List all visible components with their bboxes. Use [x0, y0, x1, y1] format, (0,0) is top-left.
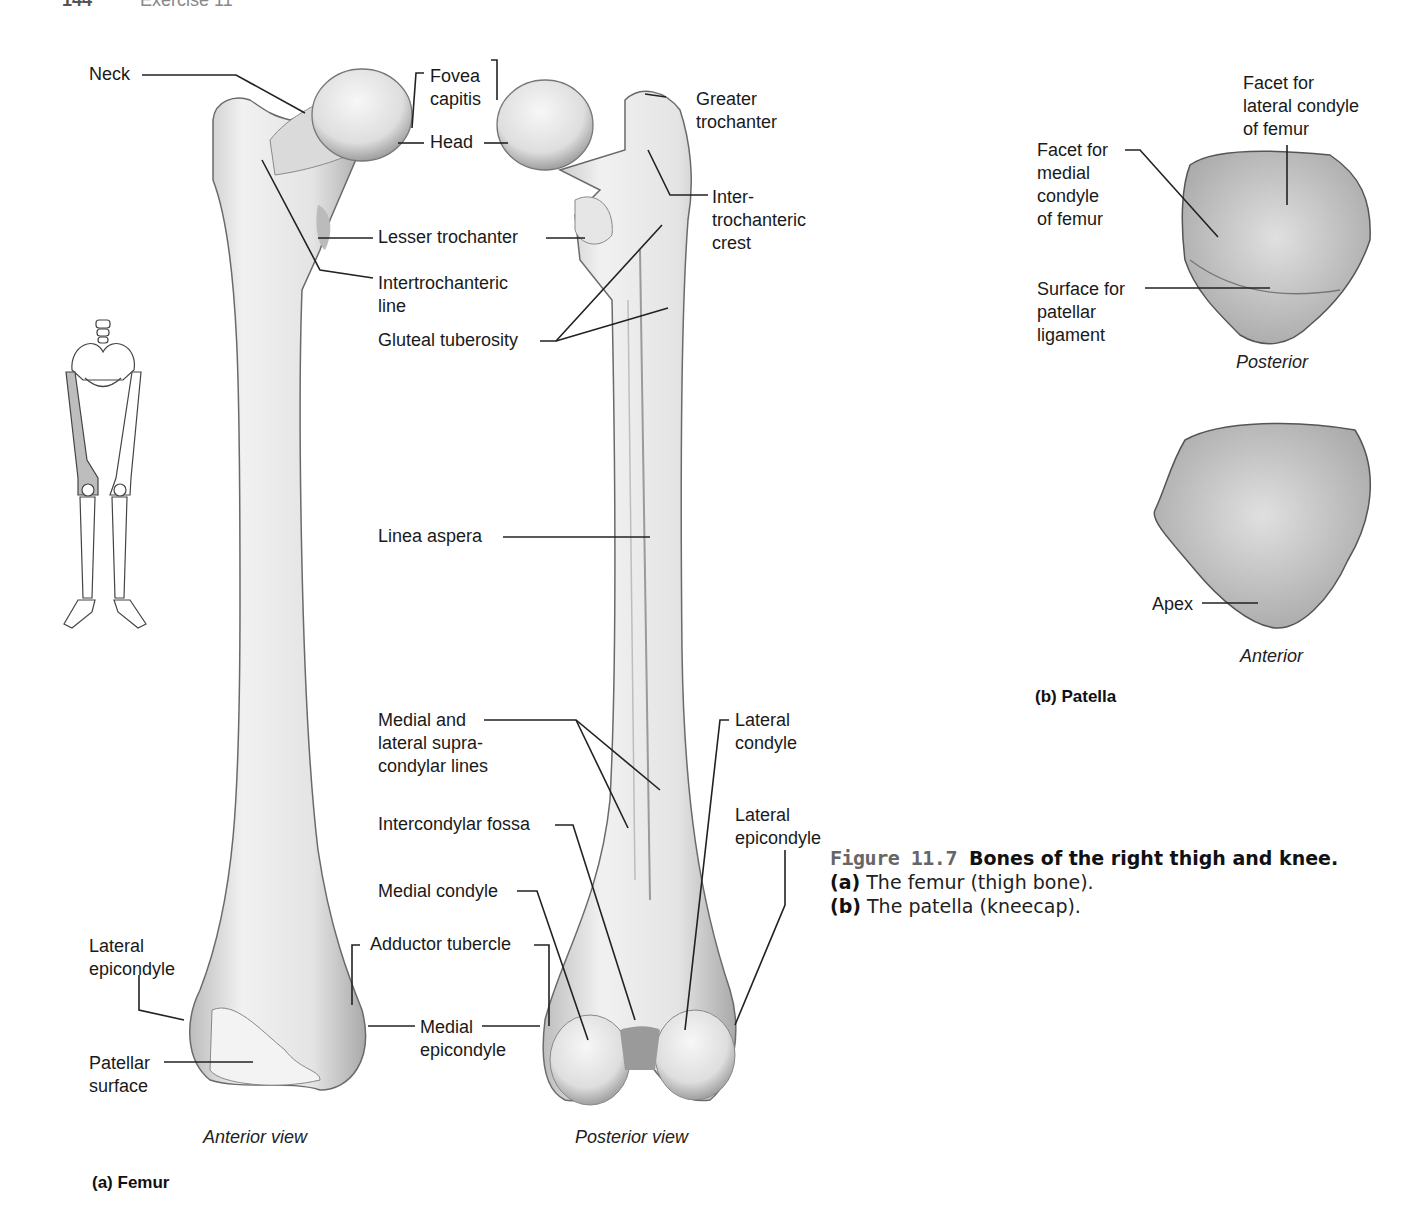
label-surface-patellar-ligament: Surface for patellar ligament — [1037, 278, 1125, 347]
label-gluteal-tuberosity: Gluteal tuberosity — [378, 329, 518, 352]
label-supracondylar-lines: Medial and lateral supra- condylar lines — [378, 709, 488, 778]
label-intertrochanteric-crest: Inter- trochanteric crest — [712, 186, 806, 255]
figure-title: Bones of the right thigh and knee. — [969, 847, 1338, 869]
figure-artwork — [0, 0, 1427, 1231]
part-b-text: The patella (kneecap). — [867, 895, 1081, 917]
label-intertrochanteric-line: Intertrochanteric line — [378, 272, 508, 318]
label-adductor-tubercle: Adductor tubercle — [370, 933, 511, 956]
label-lateral-epicondyle-posterior: Lateral epicondyle — [735, 804, 821, 850]
anterior-view-label: Anterior view — [203, 1127, 307, 1148]
panel-label-patella: (b) Patella — [1035, 687, 1116, 707]
label-facet-medial: Facet for medial condyle of femur — [1037, 139, 1108, 231]
figure-caption: Figure 11.7Bones of the right thigh and … — [830, 846, 1370, 918]
figure-number: Figure 11.7 — [830, 846, 957, 870]
label-linea-aspera: Linea aspera — [378, 525, 482, 548]
posterior-view-label: Posterior view — [575, 1127, 688, 1148]
label-patellar-surface: Patellar surface — [89, 1052, 150, 1098]
label-lateral-condyle: Lateral condyle — [735, 709, 797, 755]
label-lesser-trochanter: Lesser trochanter — [378, 226, 518, 249]
part-a-marker: (a) — [830, 871, 860, 893]
part-a-text: The femur (thigh bone). — [866, 871, 1093, 893]
part-b-marker: (b) — [830, 895, 861, 917]
patella-posterior-label: Posterior — [1236, 352, 1308, 373]
label-fovea-capitis: Fovea capitis — [430, 65, 481, 111]
label-medial-condyle: Medial condyle — [378, 880, 498, 903]
label-apex: Apex — [1152, 593, 1193, 616]
label-facet-lateral: Facet for lateral condyle of femur — [1243, 72, 1359, 141]
label-intercondylar-fossa: Intercondylar fossa — [378, 813, 530, 836]
label-head: Head — [430, 131, 473, 154]
panel-label-femur: (a) Femur — [92, 1173, 169, 1193]
patella-posterior-illustration — [1182, 151, 1370, 344]
patella-anterior-label: Anterior — [1240, 646, 1303, 667]
label-neck: Neck — [89, 63, 130, 86]
label-medial-epicondyle: Medial epicondyle — [420, 1016, 506, 1062]
label-lateral-epicondyle-anterior: Lateral epicondyle — [89, 935, 175, 981]
skeleton-locator-icon — [64, 320, 146, 628]
label-greater-trochanter: Greater trochanter — [696, 88, 777, 134]
femur-posterior-illustration — [497, 80, 736, 1105]
